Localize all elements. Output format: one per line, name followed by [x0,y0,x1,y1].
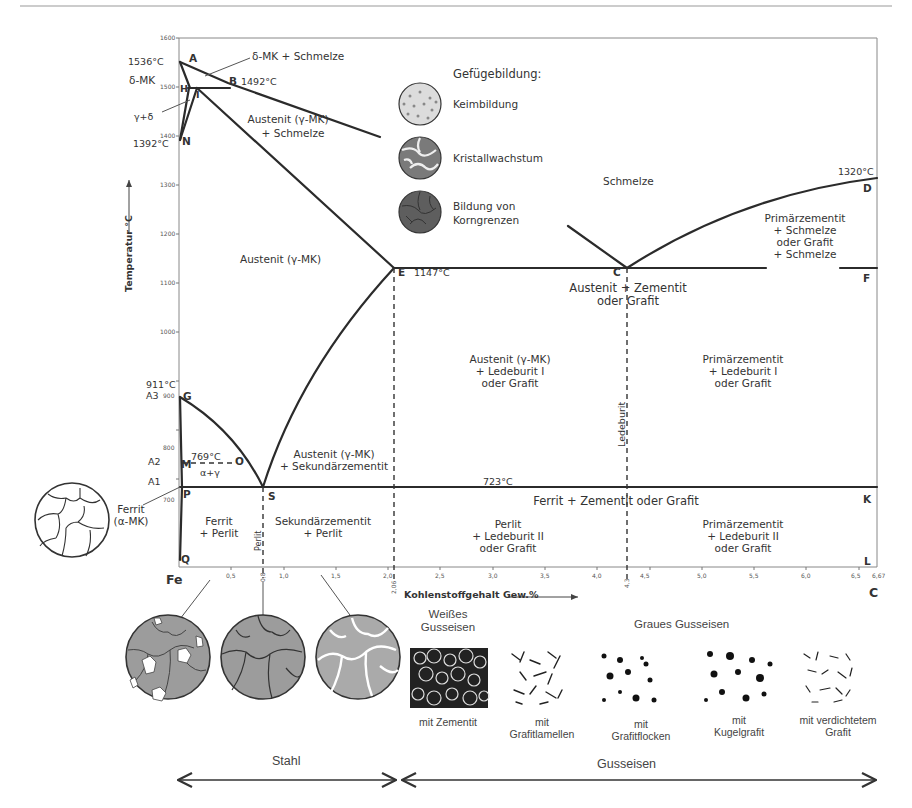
x-tick: 2,0 [383,572,393,579]
x-tick: 5,5 [749,572,759,579]
point-K: K [863,493,871,505]
region-primaer-ledeburit-2: Primärzementit + Ledeburit II oder Grafi… [703,518,784,554]
point-O: O [235,455,244,467]
iron-carbon-diagram-figure: 1600 1500 1400 1300 1200 1100 1000 900 8… [0,0,912,808]
x-tick: 0,5 [226,572,236,579]
point-N: N [182,135,191,147]
x-tick: 4,0 [592,572,602,579]
point-S: S [268,490,276,502]
temp-1392: 1392°C [133,139,169,150]
region-perlit-ledeburit-2: Perlit + Ledeburit II oder Grafit [472,518,544,554]
x-tick: 4,5 [640,572,650,579]
region-ferrit-perlit: Ferrit + Perlit [200,515,239,539]
range-label-gusseisen: Gusseisen [597,757,656,771]
point-D: D [863,182,872,194]
y-tick: 800 [163,444,174,451]
y-tick: 700 [163,496,174,503]
y-tick: 1100 [160,279,175,286]
x-tick: 6,67 [872,572,885,579]
point-E: E [398,266,405,278]
legend-icons [399,83,441,233]
region-gamma-delta: γ+δ [134,112,153,123]
caption-grafitflocken: mit Grafitflocken [612,718,671,742]
region-austenit-ledeburit-1: Austenit (γ-MK) + Ledeburit I oder Grafi… [469,353,550,389]
legend-item-kristallwachstum: Kristallwachstum [453,152,543,164]
point-L: L [864,555,871,567]
point-Q: Q [181,553,190,565]
x-tick: 3,5 [540,572,550,579]
x-tick-vertical: 4,3 [623,578,630,588]
x-tick: 1,5 [331,572,341,579]
x-tick: 6,0 [801,572,811,579]
y-tick: 1000 [160,328,175,335]
y-tick: 900 [163,392,174,399]
y-axis-label: Temperatur °C [124,215,135,292]
caption-zementit: mit Zementit [419,716,477,728]
region-austenit-schmelze: Austenit (γ-MK) [247,113,328,125]
point-C: C [613,266,621,278]
legend-item-bildung-von: Bildung von [453,200,515,212]
region-ferrit: Ferrit (α-MK) [114,503,149,527]
y-tick: 1600 [160,34,175,41]
label-A2: A2 [148,457,161,468]
y-tick: 1300 [160,181,175,188]
point-F: F [863,272,870,284]
cast-iron-microstructures [410,648,852,708]
legend-title: Gefügebildung: [453,68,541,81]
region-schmelze: Schmelze [603,175,654,187]
line-GS [180,397,263,487]
x-tick: 1,0 [279,572,289,579]
x-tick: 2,5 [435,572,445,579]
ferrit-microstructure-icon [35,483,109,557]
legend-item-korngrenzen: Korngrenzen [453,214,519,226]
label-A1: A1 [148,477,161,488]
region-alpha-gamma: α+γ [200,468,220,479]
region-sekundaerzementit-perlit: Sekundärzementit + Perlit [275,515,371,539]
temp-1147: 1147°C [414,268,450,279]
grey-cast-iron-title: Graues Gusseisen [634,618,729,631]
point-H: H [180,84,188,95]
temp-1536: 1536°C [128,57,164,68]
label-A3: A3 [146,391,159,402]
region-ferrit-zementit: Ferrit + Zementit oder Grafit [533,495,699,508]
region-austenit-sekundaerzementit: Austenit (γ-MK) + Sekundärzementit [280,448,388,472]
region-perlit-vertical: Perlit [254,531,263,551]
caption-kugelgrafit: mit Kugelgrafit [714,714,764,738]
region-ledeburit-vertical: Ledeburit [617,402,628,447]
region-primaer-schmelze: Primärzementit + Schmelze oder Grafit + … [765,212,846,260]
point-P: P [183,488,191,500]
point-G: G [183,390,192,402]
point-B: B [229,75,237,87]
temp-1492: 1492°C [241,77,277,88]
region-austenit: Austenit (γ-MK) [240,253,321,265]
caption-grafitlamellen: mit Grafitlamellen [510,716,575,740]
x-tick-vertical: 2,06 [390,581,397,594]
temp-769: 769°C [191,452,221,463]
steel-microstructures [126,615,400,701]
x-tick-vertical: 0,8 [259,572,266,582]
point-M: M [181,458,191,470]
point-I: I [196,90,200,101]
temp-723: 723°C [483,477,513,488]
region-delta-schmelze: δ-MK + Schmelze [252,50,344,62]
x-axis-label: Kohlenstoffgehalt Gew.% [404,590,538,601]
temp-1320: 1320°C [838,167,874,178]
region-austenit-schmelze-2: + Schmelze [262,127,325,139]
y-tick: 1200 [160,230,175,237]
caption-verdichteter-grafit: mit verdichtetem Grafit [799,714,876,738]
line-GPQ [180,397,182,560]
x-tick: 3,0 [488,572,498,579]
x-tick: 6,5 [851,572,861,579]
region-primaer-ledeburit-1: Primärzementit + Ledeburit I oder Grafit [703,353,784,389]
range-label-stahl: Stahl [272,754,301,768]
x-tick: 5,0 [697,572,707,579]
origin-label-fe: Fe [166,573,183,587]
y-tick: 1500 [160,83,175,90]
white-cast-iron-title: Weißes Gusseisen [421,608,475,634]
region-delta-mk: δ-MK [129,74,155,86]
region-austenit-zementit: Austenit + Zementit oder Grafit [569,282,686,308]
legend-item-keimbildung: Keimbildung [453,98,518,110]
end-label-c: C [869,586,878,600]
point-A: A [189,52,197,64]
